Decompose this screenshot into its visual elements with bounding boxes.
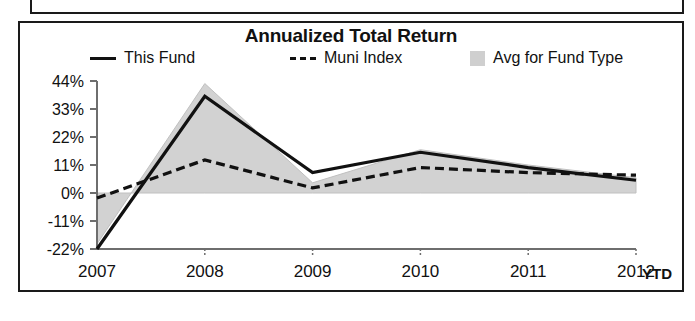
annualized-total-return-panel: Annualized Total Return This Fund Muni I… (18, 21, 684, 292)
chart-plot-area: 44%33%22%11%0%-11%-22% 20072008200920102… (20, 23, 686, 294)
x-axis-tick-label: 2010 (401, 262, 439, 281)
x-axis-tick-label: 2011 (510, 262, 547, 281)
y-axis-tick-label: 22% (52, 129, 84, 146)
y-axis-tick-label: 0% (61, 185, 84, 202)
y-axis: 44%33%22%11%0%-11%-22% (47, 73, 97, 258)
x-axis-tick-label: 2007 (78, 262, 116, 281)
x-axis-ytd-label: YTD (642, 265, 672, 282)
y-axis-tick-label: 44% (52, 73, 84, 90)
y-axis-tick-label: -22% (47, 241, 84, 258)
y-axis-tick-label: 33% (52, 101, 84, 118)
x-axis-tick-label: 2008 (186, 262, 224, 281)
x-axis: 200720082009201020112012 (78, 249, 655, 281)
y-axis-tick-label: -11% (48, 213, 84, 230)
y-axis-tick-label: 11% (53, 157, 84, 174)
adjacent-panel-fragment (30, 0, 684, 14)
chart-svg: 44%33%22%11%0%-11%-22% 20072008200920102… (20, 23, 686, 294)
x-axis-tick-label: 2009 (294, 262, 332, 281)
